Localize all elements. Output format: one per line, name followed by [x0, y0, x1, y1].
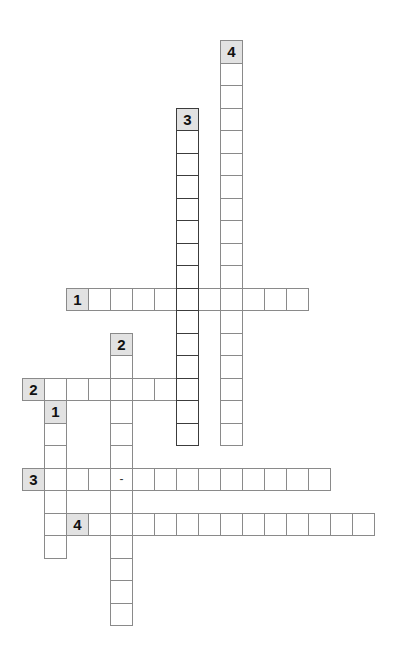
crossword-cell[interactable]: [264, 468, 287, 492]
crossword-cell[interactable]: [176, 355, 199, 379]
crossword-grid: 412213-43: [0, 0, 400, 666]
crossword-cell[interactable]: [88, 468, 111, 492]
crossword-cell[interactable]: [198, 468, 221, 492]
crossword-cell[interactable]: [220, 198, 243, 222]
crossword-cell[interactable]: [220, 513, 243, 537]
crossword-cell[interactable]: [110, 580, 133, 604]
crossword-cell[interactable]: [176, 468, 199, 492]
crossword-cell[interactable]: [110, 355, 133, 379]
crossword-cell[interactable]: [220, 400, 243, 424]
crossword-cell[interactable]: [220, 265, 243, 289]
crossword-cell[interactable]: [110, 288, 133, 312]
crossword-cell[interactable]: [198, 288, 221, 312]
crossword-cell[interactable]: [176, 130, 199, 154]
crossword-cell[interactable]: [176, 400, 199, 424]
crossword-cell[interactable]: [44, 445, 67, 469]
crossword-cell[interactable]: [110, 378, 133, 402]
crossword-cell[interactable]: [176, 333, 199, 357]
crossword-cell[interactable]: [110, 603, 133, 627]
crossword-cell[interactable]: [176, 378, 199, 402]
crossword-cell[interactable]: [154, 468, 177, 492]
crossword-cell[interactable]: [286, 513, 309, 537]
clue-number-1-down[interactable]: 1: [44, 400, 67, 424]
crossword-cell[interactable]: [110, 400, 133, 424]
crossword-cell[interactable]: [176, 175, 199, 199]
crossword-cell[interactable]: [88, 378, 111, 402]
crossword-cell[interactable]: [220, 333, 243, 357]
crossword-cell[interactable]: [220, 108, 243, 132]
crossword-cell[interactable]: [154, 513, 177, 537]
crossword-cell[interactable]: [132, 288, 155, 312]
crossword-cell[interactable]: [88, 513, 111, 537]
crossword-cell[interactable]: [154, 378, 177, 402]
crossword-cell[interactable]: [44, 423, 67, 447]
crossword-cell[interactable]: [132, 378, 155, 402]
crossword-cell[interactable]: [110, 490, 133, 514]
crossword-cell[interactable]: [308, 468, 331, 492]
crossword-cell[interactable]: [198, 513, 221, 537]
crossword-cell[interactable]: [220, 153, 243, 177]
crossword-cell[interactable]: [154, 288, 177, 312]
crossword-cell[interactable]: [110, 445, 133, 469]
crossword-cell[interactable]: [220, 378, 243, 402]
crossword-cell[interactable]: [110, 558, 133, 582]
crossword-cell[interactable]: [132, 513, 155, 537]
crossword-cell[interactable]: [220, 85, 243, 109]
crossword-cell[interactable]: [44, 490, 67, 514]
crossword-cell[interactable]: [220, 243, 243, 267]
crossword-cell[interactable]: [220, 130, 243, 154]
crossword-cell[interactable]: [220, 288, 243, 312]
crossword-cell[interactable]: [220, 468, 243, 492]
clue-number-2-down[interactable]: 2: [110, 333, 133, 357]
crossword-cell[interactable]: [176, 288, 199, 312]
clue-number-2-across[interactable]: 2: [22, 378, 45, 402]
crossword-cell[interactable]: [176, 513, 199, 537]
clue-number-4-down[interactable]: 4: [220, 40, 243, 64]
clue-number-3-down[interactable]: 3: [176, 108, 199, 132]
crossword-cell[interactable]: [286, 468, 309, 492]
crossword-cell[interactable]: [176, 153, 199, 177]
crossword-cell[interactable]: [176, 198, 199, 222]
crossword-cell[interactable]: [220, 423, 243, 447]
crossword-cell[interactable]: -: [110, 468, 133, 492]
crossword-cell[interactable]: [220, 310, 243, 334]
crossword-cell[interactable]: [176, 423, 199, 447]
crossword-cell[interactable]: [132, 468, 155, 492]
crossword-cell[interactable]: [220, 220, 243, 244]
clue-number-1-across[interactable]: 1: [66, 288, 89, 312]
crossword-cell[interactable]: [220, 63, 243, 87]
clue-number-4-across[interactable]: 4: [66, 513, 89, 537]
crossword-cell[interactable]: [242, 513, 265, 537]
crossword-cell[interactable]: [110, 535, 133, 559]
crossword-cell[interactable]: [352, 513, 375, 537]
crossword-cell[interactable]: [44, 513, 67, 537]
hyphen-mark: -: [120, 472, 124, 486]
crossword-cell[interactable]: [44, 468, 67, 492]
crossword-cell[interactable]: [308, 513, 331, 537]
crossword-cell[interactable]: [264, 513, 287, 537]
crossword-cell[interactable]: [176, 243, 199, 267]
crossword-cell[interactable]: [242, 288, 265, 312]
crossword-cell[interactable]: [242, 468, 265, 492]
crossword-cell[interactable]: [88, 288, 111, 312]
crossword-cell[interactable]: [330, 513, 353, 537]
clue-number-3-across[interactable]: 3: [22, 468, 45, 492]
crossword-cell[interactable]: [110, 423, 133, 447]
crossword-cell[interactable]: [44, 378, 67, 402]
crossword-cell[interactable]: [220, 355, 243, 379]
crossword-cell[interactable]: [220, 175, 243, 199]
crossword-cell[interactable]: [264, 288, 287, 312]
crossword-cell[interactable]: [44, 535, 67, 559]
crossword-cell[interactable]: [176, 310, 199, 334]
crossword-cell[interactable]: [66, 378, 89, 402]
crossword-cell[interactable]: [286, 288, 309, 312]
crossword-cell[interactable]: [110, 513, 133, 537]
crossword-cell[interactable]: [176, 220, 199, 244]
crossword-cell[interactable]: [176, 265, 199, 289]
crossword-cell[interactable]: [66, 468, 89, 492]
